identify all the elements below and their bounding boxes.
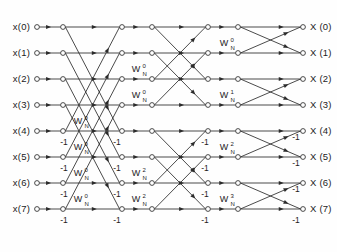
stage1-node-0 [61, 25, 66, 30]
stage2-out-node-6 [150, 181, 155, 186]
twiddle-exponent-s2-r3: 0 [142, 89, 146, 95]
stage2-straight-top-0-arrow [179, 25, 184, 29]
stage3-out-node-4 [236, 129, 241, 134]
stage2-in-node-5 [120, 155, 125, 160]
stage3-straight-top-6-arrow [279, 181, 284, 185]
twiddle-exponent-s3-r1: 0 [230, 37, 234, 43]
stage2-straight-bot-7-arrow [179, 207, 184, 211]
stage2-out-node-5 [150, 155, 155, 160]
minus-one-label-out-r4: -1 [292, 132, 300, 142]
minus-one-label-s1-r5: -1 [60, 163, 68, 173]
stage3-out-node-1 [236, 51, 241, 56]
stage2-in-node-4 [120, 129, 125, 134]
input-lead-2-arrow [46, 77, 51, 81]
twiddle-factor-s3-r5: W2N [220, 141, 235, 155]
twiddle-exponent-s1-r6: 0 [84, 167, 88, 173]
twiddle-base-s2-r2: W [132, 64, 141, 74]
stage1-straight-bot-2-arrow [92, 181, 97, 185]
twiddle-base-s1-r4: W [74, 116, 83, 126]
input-lead-6-arrow [46, 181, 51, 185]
stage2-twiddle-lead-6-arrow [133, 181, 138, 185]
stage3-in-node-0 [206, 25, 211, 30]
minus-one-label-s3-r3: -1 [201, 163, 209, 173]
input-node-3 [35, 103, 40, 108]
minus-one-label-out-r6: -1 [292, 184, 300, 194]
twiddle-subscript-s2-r7: N [142, 201, 146, 207]
stage1-straight-bot-0-arrow [92, 129, 97, 133]
twiddle-exponent-s1-r4: 0 [84, 115, 88, 121]
stage3-in-node-1 [206, 51, 211, 56]
stage1-node-4 [61, 129, 66, 134]
minus-one-label-s2-r3: -1 [113, 163, 121, 173]
stage1-straight-top-3-arrow [92, 103, 97, 107]
stage1-node-7 [61, 207, 66, 212]
stage2-out-node-0 [150, 25, 155, 30]
input-label-5: x(5) [13, 151, 30, 162]
twiddle-base-s3-r1: W [220, 38, 229, 48]
output-label-1: X (1) [310, 47, 332, 58]
stage3-out-node-5 [236, 155, 241, 160]
input-lead-4-arrow [46, 129, 51, 133]
stage1-straight-bot-1-arrow [92, 155, 97, 159]
twiddle-exponent-s2-r7: 2 [142, 193, 146, 199]
stage3-twiddle-lead-4-arrow [219, 129, 224, 133]
stage3-twiddle-lead-1-arrow [219, 51, 224, 55]
input-lead-5-arrow [46, 155, 51, 159]
output-node-7 [301, 207, 306, 212]
output-label-6: X (6) [310, 177, 332, 188]
stage3-twiddle-lead-7-arrow [219, 207, 224, 211]
stage2-in-node-2 [120, 77, 125, 82]
stage2-twiddle-lead-3-arrow [133, 103, 138, 107]
stage3-in-node-3 [206, 103, 211, 108]
twiddle-base-s1-r5: W [74, 142, 83, 152]
input-node-2 [35, 77, 40, 82]
input-lead-3-arrow [46, 103, 51, 107]
stage2-out-node-4 [150, 129, 155, 134]
output-node-3 [301, 103, 306, 108]
twiddle-factor-s2-r3: W0N [132, 89, 147, 103]
twiddle-base-s2-r6: W [132, 168, 141, 178]
minus-one-label-s2-r7: -1 [113, 215, 121, 225]
stage3-out-node-7 [236, 207, 241, 212]
twiddle-subscript-s2-r2: N [142, 71, 146, 77]
input-label-3: x(3) [13, 99, 30, 110]
input-label-2: x(2) [13, 73, 30, 84]
stage2-out-node-2 [150, 77, 155, 82]
twiddle-subscript-s3-r1: N [230, 45, 234, 51]
stage2-straight-bot-3-arrow [179, 103, 184, 107]
output-label-0: X (0) [310, 21, 332, 32]
stage1-node-6 [61, 181, 66, 186]
input-node-5 [35, 155, 40, 160]
twiddle-exponent-s3-r7: 3 [230, 193, 234, 199]
input-lead-7-arrow [46, 207, 51, 211]
input-lead-0-arrow [46, 25, 51, 29]
minus-one-label-out-r5: -1 [292, 158, 300, 168]
input-label-0: x(0) [13, 21, 30, 32]
stage2-twiddle-lead-0-arrow [133, 25, 138, 29]
output-node-0 [301, 25, 306, 30]
twiddle-subscript-s2-r3: N [142, 97, 146, 103]
stage3-in-node-5 [206, 155, 211, 160]
twiddle-subscript-s1-r4: N [84, 123, 88, 129]
stage2-in-node-7 [120, 207, 125, 212]
output-label-7: X (7) [310, 203, 332, 214]
twiddle-factor-s3-r7: W3N [220, 193, 235, 207]
minus-one-label-s2-r6: -1 [113, 189, 121, 199]
stage2-twiddle-lead-1-arrow [133, 51, 138, 55]
input-node-6 [35, 181, 40, 186]
minus-one-label-s1-r7: -1 [60, 215, 68, 225]
twiddle-factor-s3-r3: W1N [220, 89, 235, 103]
twiddle-base-s3-r5: W [220, 142, 229, 152]
minus-one-label-s3-r1: -1 [201, 137, 209, 147]
stage3-straight-bot-3-arrow [279, 103, 284, 107]
stage3-in-node-2 [206, 77, 211, 82]
stage1-node-5 [61, 155, 66, 160]
stage2-out-node-3 [150, 103, 155, 108]
stage1-straight-top-1-arrow [92, 51, 97, 55]
stage2-in-node-6 [120, 181, 125, 186]
stage3-straight-bot-1-arrow [279, 51, 284, 55]
stage3-straight-top-4-arrow [279, 129, 284, 133]
stage1-node-2 [61, 77, 66, 82]
stage3-straight-top-2-arrow [279, 77, 284, 81]
stage3-out-node-2 [236, 77, 241, 82]
